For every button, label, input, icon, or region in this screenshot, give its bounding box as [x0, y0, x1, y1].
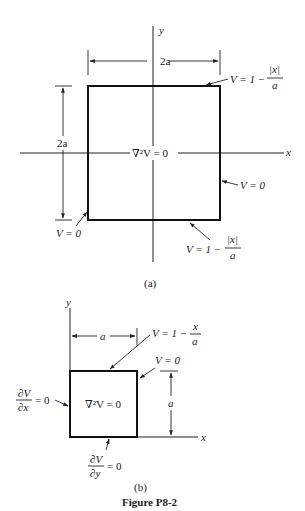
right-bc-label-b: V = 0 — [155, 354, 180, 366]
bottom-bc-den-a: a — [230, 249, 236, 261]
top-bc-arrow-b — [110, 335, 150, 369]
height-dim-label-b: a — [168, 397, 174, 409]
left-bc-arrow-a — [76, 212, 87, 226]
part-b-caption: (b) — [134, 481, 147, 494]
x-axis-label-a: x — [285, 146, 291, 158]
width-dim-label-b: a — [100, 330, 106, 342]
width-dim-label-a: 2a — [160, 55, 171, 67]
height-dim-label-a: 2a — [57, 137, 68, 149]
part-a-caption: (a) — [144, 277, 157, 290]
y-axis-label-a: y — [158, 24, 164, 36]
top-bc-den-a: a — [272, 79, 278, 91]
top-bc-lhs-b: V = 1 − — [152, 327, 187, 339]
left-bc-den-b: ∂x — [18, 401, 28, 413]
top-bc-lhs-a: V = 1 − — [230, 73, 265, 85]
x-axis-label-b: x — [200, 431, 206, 443]
y-axis-label-b: y — [65, 296, 71, 308]
part-b-diagram: y x a a ∇²V = 0 V = 1 − x a V = 0 ∂V ∂x … — [16, 296, 206, 494]
right-bc-arrow-b — [140, 368, 155, 378]
right-bc-label-a: V = 0 — [240, 179, 265, 191]
right-bc-arrow-a — [222, 181, 238, 185]
top-bc-den-b: a — [192, 335, 198, 347]
laplace-equation-a: ∇²V = 0 — [132, 147, 168, 159]
bottom-bc-arrow-a — [190, 223, 210, 240]
bottom-bc-den-b: ∂y — [90, 467, 100, 479]
top-bc-num-b: x — [192, 320, 198, 332]
bottom-bc-lhs-a: V = 1 − — [186, 243, 221, 255]
left-bc-num-b: ∂V — [18, 387, 31, 399]
left-bc-arrow-b — [55, 400, 68, 406]
left-bc-rhs-b: = 0 — [35, 394, 50, 406]
left-bc-label-a: V = 0 — [56, 227, 81, 239]
laplace-equation-b: ∇²V = 0 — [85, 398, 121, 410]
top-bc-num-a: |x| — [269, 63, 280, 75]
top-bc-arrow-a — [206, 79, 228, 85]
figure-caption: Figure P8-2 — [122, 496, 178, 508]
part-a-diagram: y x 2a 2a ∇²V = 0 V = 1 − |x| a V = 0 V … — [20, 24, 291, 290]
bottom-bc-num-a: |x| — [227, 233, 238, 245]
bottom-bc-num-b: ∂V — [90, 453, 103, 465]
bottom-bc-rhs-b: = 0 — [107, 460, 122, 472]
bottom-bc-arrow-b — [106, 439, 109, 450]
figure-p8-2: y x 2a 2a ∇²V = 0 V = 1 − |x| a V = 0 V … — [0, 0, 305, 511]
